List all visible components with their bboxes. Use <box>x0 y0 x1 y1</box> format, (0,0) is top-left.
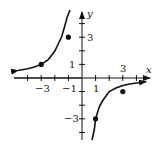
y-tick-label-neg3: −3 <box>64 113 79 124</box>
right-branch-curve <box>92 82 146 140</box>
x-tick-label-neg3: −3 <box>35 83 50 94</box>
x-tick-label-3: 3 <box>120 63 126 74</box>
y-axis-label: y <box>86 8 93 19</box>
x-axis-label: x <box>146 64 152 75</box>
x-tick-label-neg1: −1 <box>62 83 77 94</box>
left-branch-curve <box>18 10 70 71</box>
x-tick-label-1: 1 <box>93 83 99 94</box>
graph: x y −3 −1 1 3 3 1 −3 <box>0 0 161 148</box>
y-tick-label-3: 3 <box>87 32 93 43</box>
y-tick-label-1: 1 <box>69 59 75 70</box>
